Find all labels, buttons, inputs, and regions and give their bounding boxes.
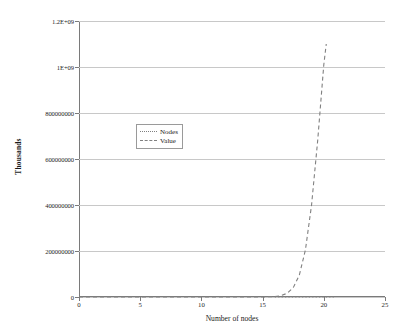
x-axis-tick-mark [140,297,141,301]
y-axis-tick-mark [75,21,79,22]
y-axis-tick-label: 0 [71,294,74,301]
x-axis-tick-label: 25 [382,301,389,309]
chart-container: Thousands 020000000040000000060000000080… [0,0,407,336]
x-axis-tick-mark [324,297,325,301]
x-axis-tick-mark [79,297,80,301]
legend-label: Value [160,137,176,145]
y-axis-tick-labels: 02000000004000000006000000008000000001E+… [0,0,74,336]
plot-area [79,21,385,297]
y-axis-tick-label: 800000000 [45,110,74,117]
legend-item: Nodes [140,127,178,136]
y-axis-tick-mark [75,113,79,114]
x-axis-tick-label: 5 [138,301,141,309]
x-axis-tick-mark [263,297,264,301]
data-series-layer [79,21,385,297]
y-axis-tick-mark [75,67,79,68]
y-axis-tick-mark [75,159,79,160]
y-axis-tick-label: 600000000 [45,156,74,163]
y-axis-tick-label: 1.2E+09 [52,18,74,25]
legend-item: Value [140,136,178,145]
x-axis-tick-label: 10 [198,301,205,309]
x-axis-tick-label: 15 [259,301,266,309]
series-line-value [79,44,326,297]
y-axis-tick-label: 400000000 [45,202,74,209]
legend-key-dotted-icon [140,128,157,135]
x-axis-title: Number of nodes [79,314,385,323]
x-axis-tick-mark [201,297,202,301]
x-axis-tick-label: 20 [320,301,327,309]
x-axis-tick-mark [385,297,386,301]
chart-legend: NodesValue [136,124,183,149]
legend-label: Nodes [160,128,178,136]
y-axis-tick-mark [75,205,79,206]
y-axis-tick-label: 1E+09 [57,64,74,71]
y-axis-tick-mark [75,251,79,252]
y-axis-tick-label: 200000000 [45,248,74,255]
legend-key-dashed-icon [140,137,157,144]
x-axis-tick-label: 0 [77,301,80,309]
